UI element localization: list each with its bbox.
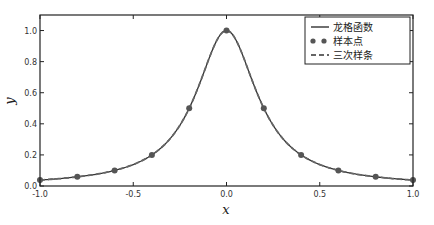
sample-point (335, 167, 341, 173)
legend: 龙格函数 样本点 三次样条 (305, 17, 410, 64)
sample-point (298, 152, 304, 158)
sample-point (373, 174, 379, 180)
sample-point (112, 167, 118, 173)
dot-marker-icon (321, 38, 326, 43)
y-axis-label: y (2, 97, 17, 106)
y-tick-label: 1.0 (24, 27, 37, 36)
sample-point (186, 105, 192, 111)
legend-label-spline: 三次样条 (333, 49, 373, 61)
x-tick-label: 0.5 (313, 190, 326, 199)
y-tick-label: 0.8 (24, 58, 37, 67)
chart: -1.0-0.50.00.51.0 0.00.20.40.60.81.0 x y… (0, 0, 434, 225)
x-tick-label: 0.0 (220, 190, 233, 199)
y-tick-label: 0.6 (24, 89, 37, 98)
x-tick-label: -1.0 (32, 190, 48, 199)
y-tick-label: 0.2 (24, 151, 37, 160)
legend-label-runge: 龙格函数 (333, 21, 373, 33)
sample-point (224, 28, 230, 34)
sample-point (149, 152, 155, 158)
y-tick-label: 0.0 (24, 182, 37, 191)
x-axis-label: x (222, 202, 230, 217)
sample-point (74, 174, 80, 180)
legend-label-samples: 样本点 (333, 35, 363, 47)
sample-point (261, 105, 267, 111)
x-tick-label: 1.0 (407, 190, 420, 199)
y-tick-label: 0.4 (24, 120, 37, 129)
dot-marker-icon (310, 38, 315, 43)
x-tick-label: -0.5 (125, 190, 141, 199)
